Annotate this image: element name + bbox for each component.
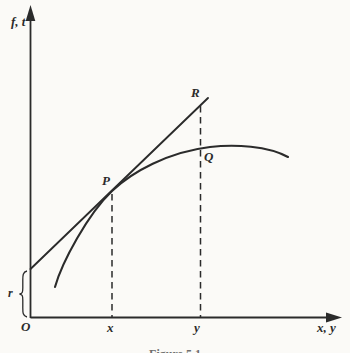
y-axis-arrowhead-icon — [26, 5, 36, 21]
y-axis-label: f, t — [11, 15, 25, 28]
r-intercept-label: r — [8, 287, 13, 299]
x-axis-label: x, y — [317, 321, 336, 334]
point-p-label: P — [102, 174, 110, 187]
math-figure: f, t x, y O x y r P Q R Figure 5.1 — [0, 0, 350, 353]
y-tick-label: y — [194, 321, 200, 334]
function-curve — [55, 146, 288, 287]
x-tick-label: x — [107, 321, 114, 334]
figure-drawing — [0, 0, 350, 353]
r-brace — [20, 271, 28, 317]
origin-label: O — [21, 320, 30, 333]
figure-caption: Figure 5.1 — [0, 347, 350, 353]
point-r-label: R — [191, 86, 200, 99]
point-q-label: Q — [204, 150, 213, 163]
